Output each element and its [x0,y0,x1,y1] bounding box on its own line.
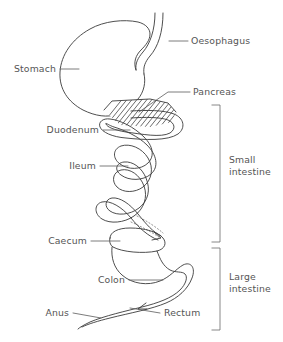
label-oesophagus: Oesophagus [191,35,250,46]
group-label-large-intestine-line2: intestine [229,283,271,294]
label-duodenum: Duodenum [47,124,99,135]
label-rectum: Rectum [164,307,200,318]
group-label-small-intestine-line1: Small [229,154,256,165]
digestive-system-illustration: Oesophagus Stomach Pancreas Duodenum Ile… [0,0,283,342]
label-colon: Colon [98,274,125,285]
digestive-system-diagram: Oesophagus Stomach Pancreas Duodenum Ile… [0,0,283,342]
label-anus: Anus [45,307,69,318]
group-label-small-intestine-line2: intestine [229,166,271,177]
leader-lines [60,41,190,318]
small-intestine-bracket [212,105,220,242]
label-stomach: Stomach [14,63,56,74]
large-intestine-bracket [212,248,220,330]
label-caecum: Caecum [48,235,87,246]
label-ileum: Ileum [69,160,96,171]
leader-anus [73,313,101,318]
group-label-large-intestine-line1: Large [229,271,256,282]
label-pancreas: Pancreas [193,86,236,97]
